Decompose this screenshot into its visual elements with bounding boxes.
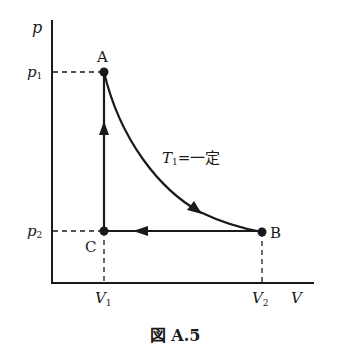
arrow-up-icon <box>99 121 109 135</box>
x-tick-v2: V2 <box>252 289 269 308</box>
x-axis-label: V <box>291 289 304 307</box>
point-a-dot <box>100 68 109 77</box>
y-axis-label: p <box>32 18 42 37</box>
point-b-label: B <box>270 224 281 242</box>
figure-caption: 図 A.5 <box>150 326 201 345</box>
y-tick-p1: p1 <box>27 63 42 81</box>
point-a-label: A <box>96 48 108 66</box>
point-b-dot <box>258 228 267 237</box>
point-c-dot <box>100 227 109 236</box>
y-tick-p2: p2 <box>27 222 42 240</box>
point-c-label: C <box>85 238 96 256</box>
isotherm-label: T1=一定 <box>162 149 220 167</box>
arrow-left-icon <box>133 226 148 236</box>
arrow-down-right-icon <box>187 201 202 214</box>
pv-diagram: A B C p V p1 p2 V1 V2 T1=一定 図 A.5 <box>0 0 340 350</box>
x-tick-v1: V1 <box>95 289 112 308</box>
